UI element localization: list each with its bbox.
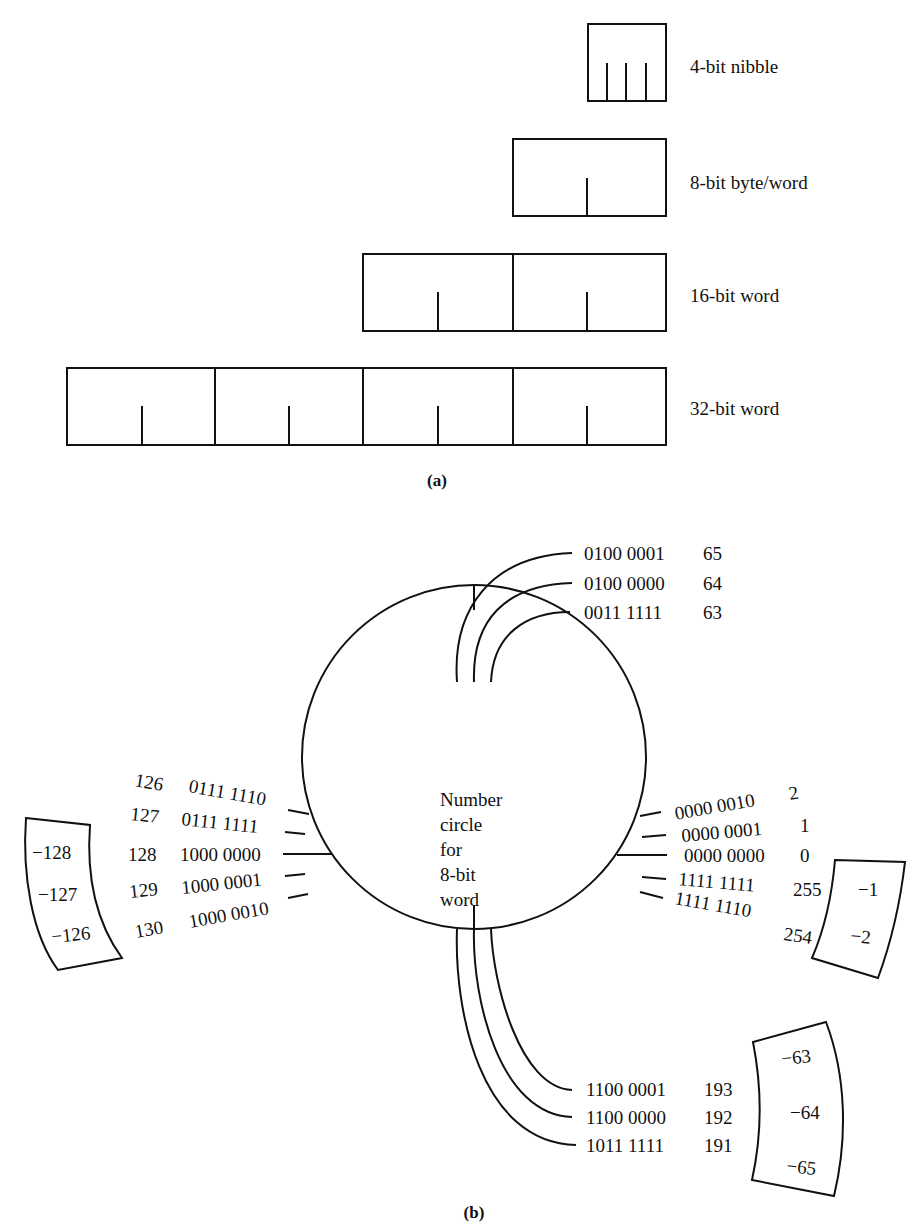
svg-text:−64: −64 [790, 1102, 820, 1123]
svg-text:127: 127 [130, 803, 161, 827]
svg-text:63: 63 [703, 602, 722, 623]
svg-text:−65: −65 [786, 1155, 818, 1179]
svg-text:65: 65 [703, 543, 722, 564]
byte-box [513, 139, 666, 216]
left-signed-box: −128 −127 −126 [25, 818, 122, 970]
caption-a: (a) [427, 471, 447, 490]
svg-text:1100 0001: 1100 0001 [586, 1079, 666, 1100]
byte-label: 8-bit byte/word [690, 172, 808, 193]
svg-text:word: word [440, 889, 480, 910]
svg-text:1000 0010: 1000 0010 [187, 897, 270, 932]
svg-text:1000 0001: 1000 0001 [180, 869, 263, 898]
caption-b: (b) [464, 1203, 485, 1222]
right-signed-box: −1 −2 [812, 860, 905, 978]
right-labels: 0000 0010 2 0000 0001 1 0000 0000 0 1111… [673, 782, 821, 948]
svg-text:circle: circle [440, 814, 482, 835]
svg-text:0111 1110: 0111 1110 [187, 775, 267, 809]
nibble-box [588, 24, 666, 101]
svg-text:1011 1111: 1011 1111 [586, 1135, 664, 1156]
word32-label: 32-bit word [690, 398, 780, 419]
svg-text:193: 193 [704, 1079, 733, 1100]
svg-text:254: 254 [782, 923, 814, 948]
nibble-label: 4-bit nibble [690, 56, 778, 77]
top-labels: 0100 0001 65 0100 0000 64 0011 1111 63 [584, 543, 723, 623]
svg-text:255: 255 [793, 879, 822, 900]
svg-text:0000 0001: 0000 0001 [681, 818, 763, 846]
bottom-signed-box: −63 −64 −65 [752, 1022, 843, 1196]
svg-text:1100 0000: 1100 0000 [586, 1107, 666, 1128]
svg-text:2: 2 [787, 782, 800, 804]
svg-text:191: 191 [704, 1135, 733, 1156]
svg-text:130: 130 [133, 916, 165, 942]
svg-text:0111 1111: 0111 1111 [181, 808, 260, 837]
svg-text:−128: −128 [32, 842, 71, 863]
word32-box [67, 368, 666, 445]
svg-text:0000 0000: 0000 0000 [684, 845, 765, 866]
word16-label: 16-bit word [690, 285, 780, 306]
svg-text:0100 0001: 0100 0001 [584, 543, 665, 564]
svg-text:0011 1111: 0011 1111 [584, 602, 662, 623]
svg-text:0: 0 [800, 845, 810, 866]
svg-text:for: for [440, 839, 463, 860]
svg-text:128: 128 [128, 844, 157, 865]
top-leaders [457, 553, 572, 682]
svg-text:64: 64 [703, 573, 723, 594]
svg-text:8-bit: 8-bit [440, 864, 477, 885]
bottom-labels: 1100 0001 193 1100 0000 192 1011 1111 19… [586, 1079, 733, 1156]
word16-box [363, 254, 666, 331]
svg-text:126: 126 [133, 769, 165, 795]
svg-text:Number: Number [440, 789, 503, 810]
svg-text:−2: −2 [850, 925, 872, 948]
svg-text:−126: −126 [50, 922, 91, 947]
svg-text:129: 129 [128, 878, 159, 902]
svg-text:−1: −1 [858, 879, 878, 900]
svg-text:0100 0000: 0100 0000 [584, 573, 665, 594]
svg-text:−63: −63 [780, 1045, 812, 1069]
svg-text:1000 0000: 1000 0000 [180, 844, 261, 865]
word-size-diagram: 4-bit nibble 8-bit byte/word 16-bit word… [0, 0, 916, 1228]
svg-text:192: 192 [704, 1107, 733, 1128]
left-labels: 126 0111 1110 127 0111 1111 128 1000 000… [128, 769, 270, 942]
center-label: Number circle for 8-bit word [440, 789, 503, 910]
svg-text:−127: −127 [38, 884, 77, 905]
bottom-leaders [457, 929, 576, 1145]
svg-text:1: 1 [800, 815, 810, 836]
